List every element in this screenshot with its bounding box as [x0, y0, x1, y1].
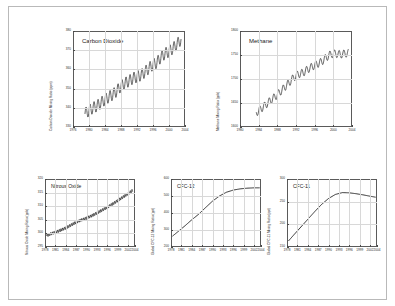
x-axis-tick: [333, 125, 334, 127]
panel-cfc-12: Global CFC-12 Mixing Ratio (ppt) CFC-12 …: [149, 175, 267, 267]
gridline-vertical: [97, 179, 98, 247]
y-axis-tick: [73, 69, 75, 70]
y-axis-tick-label: 330: [58, 125, 71, 128]
y-axis-tick-label: 360: [58, 68, 71, 71]
gridline-vertical: [76, 179, 77, 247]
x-axis-tick: [339, 245, 340, 247]
y-axis-tick: [240, 31, 242, 32]
y-axis-tick-label: 200: [272, 223, 285, 226]
y-axis-tick: [45, 247, 47, 248]
data-series-line: [45, 179, 135, 247]
x-axis-tick: [318, 245, 319, 247]
y-axis-tick: [73, 127, 75, 128]
y-axis-tick: [287, 224, 289, 225]
panel-cfc-11: Global CFC-11 Mixing Ratio (ppt) CFC-11 …: [265, 175, 383, 267]
x-axis-tick-label: 1988: [274, 129, 281, 132]
x-axis-tick-label: 2004: [258, 249, 265, 252]
x-axis-tick: [296, 125, 297, 127]
gridline-horizontal: [240, 103, 352, 104]
gridline-vertical: [55, 179, 56, 247]
x-axis-tick-label: 1981: [178, 249, 185, 252]
y-axis-tick-label: 305: [30, 218, 43, 221]
gridline-vertical: [107, 179, 108, 247]
axis-title-y: Global CFC-11 Mixing Ratio (ppt): [268, 208, 271, 255]
plot-area: Nitrous Oxide 19781981198419871990199319…: [45, 179, 135, 247]
x-axis-tick-label: 2000: [166, 129, 173, 132]
gridline-vertical: [339, 179, 340, 247]
x-axis-tick-label: 1978: [284, 249, 291, 252]
y-axis-tick-label: 300: [272, 177, 285, 180]
x-axis-tick-label: 1993: [93, 249, 100, 252]
x-axis-tick: [121, 125, 122, 127]
x-axis-tick-label: 1987: [199, 249, 206, 252]
plot-area: Carbon Dioxide 1976198019841988199219962…: [73, 31, 185, 127]
y-axis-tick-label: 1750: [225, 53, 238, 56]
x-axis-tick-label: 1987: [315, 249, 322, 252]
x-axis-tick-label: 1992: [134, 129, 141, 132]
y-axis-tick: [45, 220, 47, 221]
x-axis-tick: [329, 245, 330, 247]
x-axis-tick-label: 1984: [62, 249, 69, 252]
x-axis-tick: [192, 245, 193, 247]
gridline-horizontal: [73, 89, 185, 90]
gridline-horizontal: [171, 213, 261, 214]
y-axis-tick: [240, 103, 242, 104]
plot-area: CFC-12 197819811984198719901993199619992…: [171, 179, 261, 247]
gridline-vertical: [297, 179, 298, 247]
y-axis-tick: [287, 247, 289, 248]
x-axis-tick-label: 1996: [230, 249, 237, 252]
gridline-vertical: [308, 179, 309, 247]
x-axis-tick: [360, 245, 361, 247]
gridline-horizontal: [73, 69, 185, 70]
y-axis-tick-label: 600: [156, 177, 169, 180]
y-axis-tick-label: 310: [30, 205, 43, 208]
x-axis-tick-label: 1990: [83, 249, 90, 252]
x-axis-tick: [349, 245, 350, 247]
figure-container: Carbon Dioxide Mixing Ratio (ppm) Carbon…: [8, 6, 387, 300]
x-axis-tick: [315, 125, 316, 127]
y-axis-tick-label: 1650: [225, 101, 238, 104]
x-axis-tick: [297, 245, 298, 247]
y-axis-tick-label: 400: [156, 211, 169, 214]
x-axis-tick: [118, 245, 119, 247]
x-axis-tick-label: 1978: [42, 249, 49, 252]
x-axis-tick-label: 1981: [52, 249, 59, 252]
gridline-horizontal: [287, 202, 377, 203]
gridline-vertical: [360, 179, 361, 247]
y-axis-tick: [171, 196, 173, 197]
x-axis-tick-label: 1990: [209, 249, 216, 252]
gridline-vertical: [169, 31, 170, 127]
y-axis-tick: [45, 206, 47, 207]
x-axis-tick: [55, 245, 56, 247]
plot-area: CFC-11 197819811984198719901993199619992…: [287, 179, 377, 247]
x-axis-tick-label: 1978: [168, 249, 175, 252]
axis-title-y: Methane Mixing Ratio (ppb): [217, 92, 220, 131]
x-axis-tick-label: 1996: [150, 129, 157, 132]
gridline-vertical: [121, 31, 122, 127]
gridline-vertical: [329, 179, 330, 247]
y-axis-tick-label: 380: [58, 29, 71, 32]
x-axis-tick: [89, 125, 90, 127]
x-axis-tick: [87, 245, 88, 247]
y-axis-tick: [287, 202, 289, 203]
x-axis-tick-label: 1984: [102, 129, 109, 132]
x-axis-tick-label: 1984: [255, 129, 262, 132]
x-axis-tick: [352, 125, 353, 127]
y-axis-tick-label: 1700: [225, 77, 238, 80]
x-axis-tick-label: 1999: [356, 249, 363, 252]
x-axis-tick: [223, 245, 224, 247]
axis-title-y: Global CFC-12 Mixing Ratio (ppt): [152, 208, 155, 255]
y-axis-tick: [171, 213, 173, 214]
y-axis-tick: [171, 230, 173, 231]
x-axis-tick-label: 2004: [182, 129, 189, 132]
gridline-horizontal: [45, 206, 135, 207]
gridline-horizontal: [240, 55, 352, 56]
y-axis-tick-label: 320: [30, 177, 43, 180]
x-axis-tick: [185, 125, 186, 127]
y-axis-tick: [45, 233, 47, 234]
gridline-horizontal: [45, 220, 135, 221]
x-axis-tick: [107, 245, 108, 247]
y-axis-tick-label: 1600: [225, 125, 238, 128]
x-axis-tick: [261, 245, 262, 247]
gridline-vertical: [370, 179, 371, 247]
